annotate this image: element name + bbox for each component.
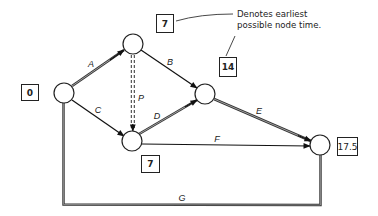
- node-1: [54, 83, 74, 103]
- activity-f-arrow: [142, 144, 310, 146]
- annotation-pointer-top: [176, 14, 233, 21]
- annotation-text: Denotes earliest possible node time.: [237, 9, 321, 31]
- network-diagram: A B C P D E F G 0 7 14 7 17.5 Denotes ea…: [0, 0, 378, 216]
- node-2-time-box: 7: [156, 14, 174, 33]
- annotation-pointer-right: [226, 36, 235, 56]
- activity-b-label: B: [167, 58, 173, 67]
- node-2: [123, 34, 143, 54]
- node-3: [195, 84, 215, 104]
- node-3-time-box: 14: [219, 57, 237, 77]
- activity-g-path: [64, 103, 321, 205]
- node-5-time-box: 17.5: [337, 137, 358, 156]
- activity-p-arrow: [131, 55, 134, 131]
- network-graphic: [0, 0, 378, 216]
- activity-c-label: C: [95, 106, 102, 115]
- activity-g-label: G: [178, 194, 185, 203]
- activity-d-label: D: [154, 112, 161, 121]
- activity-a-arrow: [72, 50, 124, 86]
- annotation-line-2: possible node time.: [237, 20, 321, 31]
- activity-d-arrow: [139, 100, 197, 134]
- activity-e-label: E: [256, 107, 262, 116]
- activity-f-label: F: [214, 135, 220, 144]
- activity-a-label: A: [88, 60, 94, 69]
- annotation-line-1: Denotes earliest: [237, 9, 321, 20]
- node-5: [310, 135, 330, 155]
- node-1-time-box: 0: [21, 84, 39, 101]
- node-4: [122, 131, 142, 151]
- activity-e-arrow: [214, 99, 311, 141]
- activity-p-label: P: [138, 94, 144, 103]
- node-4-time-box: 7: [141, 155, 160, 173]
